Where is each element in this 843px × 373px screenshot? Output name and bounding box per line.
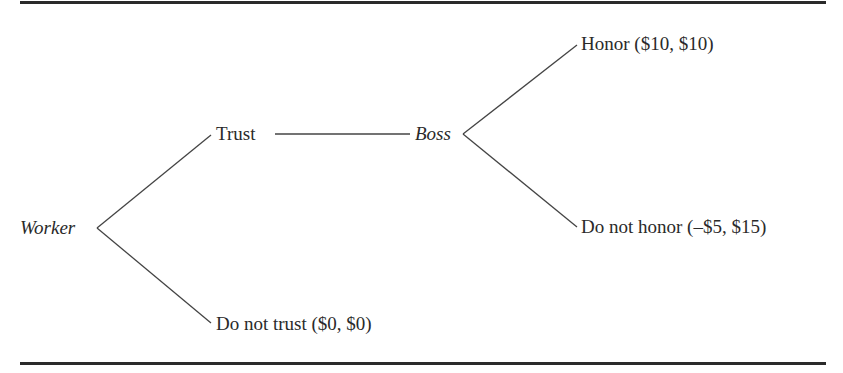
branch-do-not-trust: Do not trust ($0, $0) [216,313,372,335]
edge-boss-do-not-honor [463,134,577,227]
node-boss: Boss [415,123,451,145]
edge-worker-trust [97,135,211,228]
branch-trust: Trust [216,123,255,145]
bottom-rule [20,362,826,365]
branch-honor: Honor ($10, $10) [581,33,713,55]
edge-worker-do-not-trust [97,228,211,323]
edge-boss-honor [463,45,577,134]
branch-do-not-honor: Do not honor (–$5, $15) [581,216,766,238]
node-worker: Worker [20,217,75,239]
game-tree-edges [0,0,843,373]
